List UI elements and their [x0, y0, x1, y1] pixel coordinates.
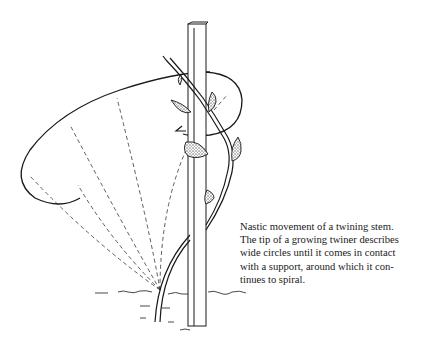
caption-line: tinues to spiral.: [240, 273, 436, 286]
support-stake: [188, 22, 208, 326]
leaf-top-bud: [178, 75, 182, 85]
caption-line: wide circles until it comes in contact: [240, 246, 436, 259]
caption-line: Nastic movement of a twining stem.: [240, 220, 436, 233]
caption-line: The tip of a growing twiner describes: [240, 233, 436, 246]
leaf-right: [232, 137, 242, 161]
leaf-lower: [205, 190, 214, 204]
ground-lines: [95, 291, 246, 330]
figure-caption: Nastic movement of a twining stem. The t…: [240, 220, 436, 286]
caption-line: with a support, around which it con-: [240, 260, 436, 273]
twining-stem-illustration: [0, 0, 436, 349]
circling-path: [21, 72, 242, 204]
